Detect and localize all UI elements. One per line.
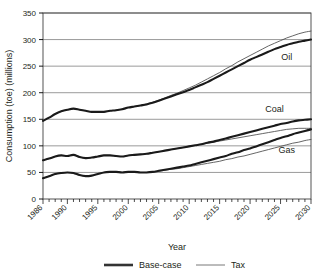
y-tick-label-300: 300 bbox=[23, 36, 37, 45]
y-tick-label-100: 100 bbox=[23, 142, 37, 151]
legend-label-base-case: Base-case bbox=[139, 260, 182, 270]
legend-label-tax: Tax bbox=[231, 260, 246, 270]
consumption-line-chart: 050100150200250300350 198619901995200020… bbox=[0, 0, 317, 279]
y-tick-label-50: 50 bbox=[27, 168, 36, 177]
x-axis-title: Year bbox=[168, 242, 186, 252]
y-tick-label-350: 350 bbox=[23, 9, 37, 18]
y-tick-label-150: 150 bbox=[23, 115, 37, 124]
series-annotation-gas: Gas bbox=[278, 145, 295, 155]
y-tick-label-0: 0 bbox=[32, 195, 37, 204]
y-tick-label-200: 200 bbox=[23, 89, 37, 98]
series-annotation-oil: Oil bbox=[281, 52, 292, 62]
y-tick-label-250: 250 bbox=[23, 62, 37, 71]
chart-background bbox=[0, 0, 317, 279]
series-annotation-coal: Coal bbox=[265, 104, 284, 114]
y-axis-title: Consumption (toe) (millions) bbox=[4, 50, 14, 163]
chart-canvas: 050100150200250300350 198619901995200020… bbox=[0, 0, 317, 279]
